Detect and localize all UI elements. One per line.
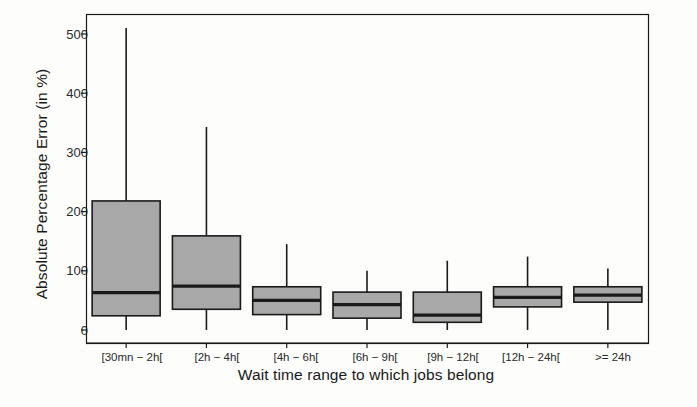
box-body <box>172 236 240 309</box>
box-6 <box>494 257 562 330</box>
plot-area <box>0 0 697 407</box>
box-1 <box>92 28 160 330</box>
box-body <box>413 292 481 322</box>
box-2 <box>172 127 240 330</box>
boxplot-figure: Absolute Percentage Error (in %) 500 400… <box>0 0 697 407</box>
box-5 <box>413 261 481 330</box>
box-3 <box>253 244 321 330</box>
box-7 <box>574 268 642 330</box>
box-4 <box>333 271 401 330</box>
box-body <box>92 201 160 316</box>
